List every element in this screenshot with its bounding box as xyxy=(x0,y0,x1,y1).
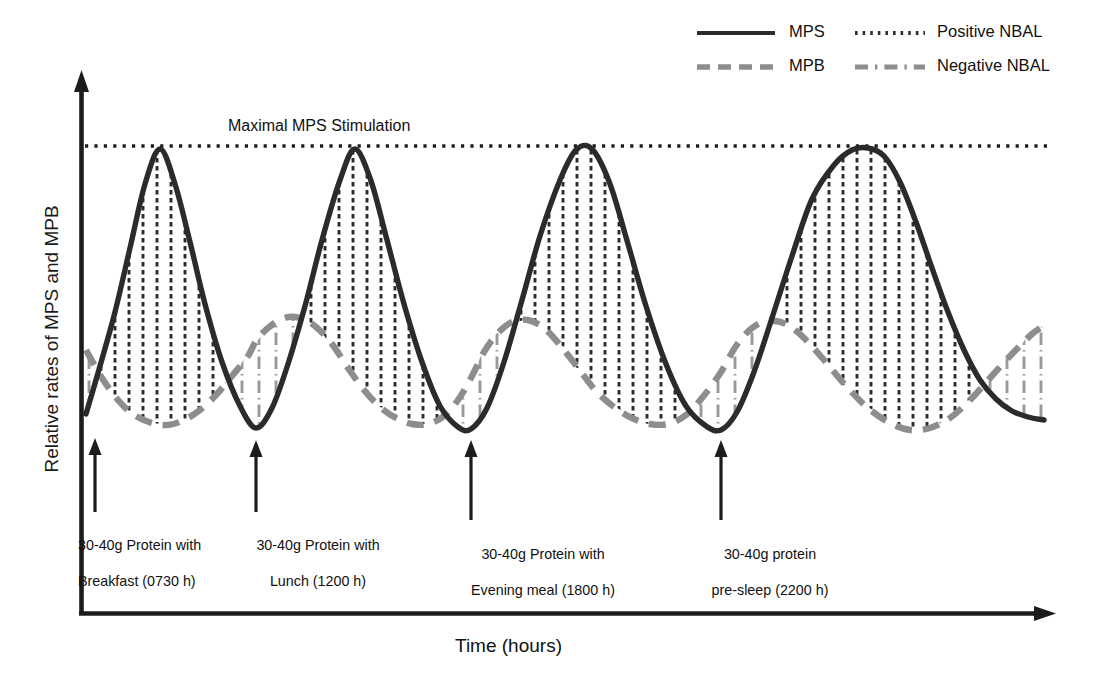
annotation-breakfast: 30-40g Protein with Breakfast (0730 h) xyxy=(78,518,248,590)
feeding-arrow-evening-meal xyxy=(465,440,478,520)
feeding-arrow-breakfast xyxy=(89,438,102,512)
legend-label-mps: MPS xyxy=(789,22,825,41)
annotation-lunch: 30-40g Protein with Lunch (1200 h) xyxy=(228,518,408,590)
positive-nbal-region xyxy=(98,149,230,425)
annotation-evening-meal-line1: 30-40g Protein with xyxy=(481,546,604,562)
annotation-lunch-line2: Lunch (1200 h) xyxy=(270,573,366,589)
feeding-arrow-lunch xyxy=(250,440,263,512)
annotation-pre-sleep-line2: pre-sleep (2200 h) xyxy=(712,582,829,598)
legend-label-mpb: MPB xyxy=(789,56,825,75)
legend-label-negative-nbal: Negative NBAL xyxy=(937,56,1050,75)
annotation-evening-meal: 30-40g Protein with Evening meal (1800 h… xyxy=(448,527,638,599)
maximal-mps-label: Maximal MPS Stimulation xyxy=(228,117,410,135)
positive-nbal-region xyxy=(770,148,985,430)
annotation-evening-meal-line2: Evening meal (1800 h) xyxy=(471,582,615,598)
figure-container: Maximal MPS Stimulation MPS Positive NBA… xyxy=(0,0,1107,684)
x-axis-label: Time (hours) xyxy=(455,635,562,657)
annotation-pre-sleep-line1: 30-40g protein xyxy=(724,546,816,562)
annotation-breakfast-line1: 30-40g Protein with xyxy=(78,537,201,553)
y-axis-label: Relative rates of MPS and MPB xyxy=(41,139,63,539)
annotation-breakfast-line2: Breakfast (0730 h) xyxy=(78,573,196,589)
annotation-pre-sleep: 30-40g protein pre-sleep (2200 h) xyxy=(680,527,860,599)
annotation-lunch-line1: 30-40g Protein with xyxy=(256,537,379,553)
feeding-arrows xyxy=(89,438,728,520)
legend-label-positive-nbal: Positive NBAL xyxy=(937,22,1042,41)
feeding-arrow-pre-sleep xyxy=(715,440,728,520)
positive-nbal-region xyxy=(516,149,692,424)
negative-nbal-region xyxy=(692,320,770,430)
